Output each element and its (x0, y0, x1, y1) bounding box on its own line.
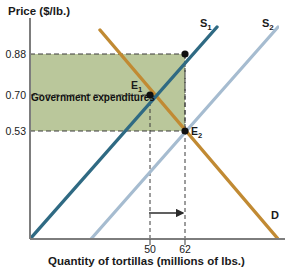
y-tick-label-088: 0.88 (0, 49, 26, 60)
chart-canvas (0, 0, 293, 273)
demand-curve-d (100, 30, 279, 240)
equilibrium-label-e2-text: E (191, 125, 198, 137)
x-tick-label-50: 50 (138, 244, 162, 255)
equilibrium-label-e2: E2 (191, 126, 202, 140)
x-tick-label-62: 62 (173, 244, 197, 255)
curve-label-s1-sub: 1 (207, 23, 211, 32)
price-support-point (181, 50, 188, 57)
curve-label-s2-sub: 2 (269, 23, 273, 32)
y-tick-label-070: 0.70 (0, 90, 26, 101)
curve-label-d: D (271, 210, 279, 221)
economics-supply-demand-chart: Price ($/lb.) Quantity of tortillas (mil… (0, 0, 293, 273)
equilibrium-label-e1-text: E (131, 79, 138, 91)
curve-label-s1: S1 (200, 18, 212, 32)
x-axis-title: Quantity of tortillas (millions of lbs.) (0, 256, 293, 268)
curve-label-d-text: D (271, 209, 279, 221)
equilibrium-label-e2-sub: 2 (198, 131, 202, 140)
y-tick-label-053: 0.53 (0, 126, 26, 137)
curve-label-s2: S2 (262, 18, 274, 32)
government-expenditures-label: Government expenditures (31, 93, 155, 103)
y-axis-title: Price ($/lb.) (8, 6, 70, 18)
equilibrium-point-e2 (181, 127, 188, 134)
